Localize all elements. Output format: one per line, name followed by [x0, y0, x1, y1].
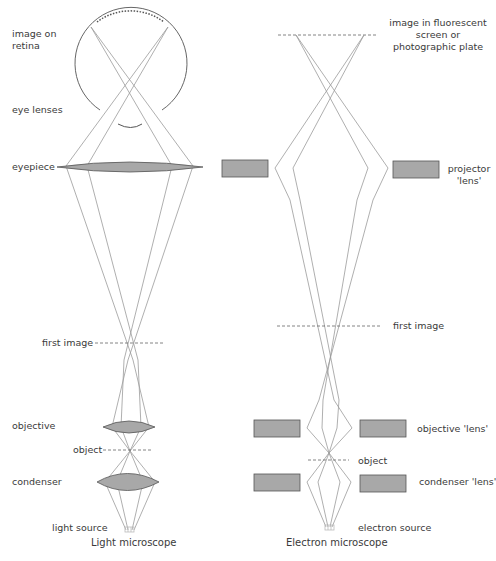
label-condenser: condenser	[12, 476, 62, 488]
label-image-screen: image in fluorescent screen or photograp…	[383, 17, 493, 53]
label-condenser-lens: condenser 'lens'	[419, 476, 496, 488]
projector-lens-right	[393, 161, 439, 178]
objective-lens-right	[360, 420, 406, 437]
eyepiece-lens	[57, 162, 203, 172]
electron-microscope-diagram	[222, 35, 439, 530]
condenser-lens-right	[360, 475, 406, 492]
electron-rays	[275, 35, 388, 527]
eye-outline	[75, 7, 187, 110]
label-image-on-retina: image on retina	[12, 28, 56, 52]
caption-electron-microscope: Electron microscope	[286, 537, 388, 549]
label-objective: objective	[12, 420, 55, 432]
condenser-lens-left	[254, 474, 300, 491]
label-first-image-electron: first image	[393, 320, 444, 332]
eye-lens	[118, 124, 142, 128]
label-eyepiece: eyepiece	[12, 161, 55, 173]
objective-lens-left	[254, 420, 300, 437]
label-electron-source: electron source	[358, 522, 431, 534]
label-projector-lens: projector 'lens'	[444, 163, 494, 187]
label-first-image-light: first image	[42, 337, 93, 349]
label-light-source: light source	[52, 522, 108, 534]
objective-lens	[103, 421, 155, 433]
label-eye-lenses: eye lenses	[12, 104, 63, 116]
label-object-electron: object	[358, 455, 387, 467]
label-objective-lens: objective 'lens'	[417, 423, 488, 435]
projector-lens-left	[222, 160, 268, 177]
label-object-light: object	[73, 444, 102, 456]
caption-light-microscope: Light microscope	[91, 537, 177, 549]
